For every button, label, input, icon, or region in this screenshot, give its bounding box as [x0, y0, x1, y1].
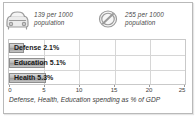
bar-label-education: Education 5.1%	[14, 57, 66, 68]
stat-item-cars: 139 per 1000 population	[4, 4, 95, 34]
car-icon	[4, 7, 31, 31]
bar-value-health: 5.3%	[37, 74, 53, 81]
bar-label-defense: Defense 2.1%	[14, 42, 59, 53]
bar-category-education: Education	[14, 59, 48, 66]
x-tick-label-25: 25	[179, 87, 186, 93]
bar-label-health: Health 5.3%	[14, 72, 53, 83]
bar-category-health: Health	[14, 74, 35, 81]
bar-series: Defense 2.1% Education 5.1% Health 5.3%	[9, 40, 185, 84]
bar-row-health[interactable]: Health 5.3%	[9, 70, 185, 85]
x-tick-label-5: 5	[42, 87, 45, 93]
stat-label-cars: 139 per 1000 population	[34, 11, 73, 26]
bar-chart-plot: Defense 2.1% Education 5.1% Health 5.3%	[8, 39, 186, 85]
x-tick-label-15: 15	[111, 87, 118, 93]
x-tick-label-20: 20	[146, 87, 153, 93]
telephone-circle-icon	[95, 7, 122, 31]
bar-row-defense[interactable]: Defense 2.1%	[9, 40, 185, 55]
bar-row-education[interactable]: Education 5.1%	[9, 55, 185, 70]
stat-row: 139 per 1000 population 255 per 1000 pop…	[4, 4, 186, 34]
bar-value-education: 5.1%	[50, 59, 66, 66]
stat-label-telephones: 255 per 1000 population	[125, 11, 164, 26]
infographic-card: 139 per 1000 population 255 per 1000 pop…	[0, 0, 196, 118]
x-tick-label-10: 10	[76, 87, 83, 93]
stat-item-telephones: 255 per 1000 population	[95, 4, 186, 34]
bar-category-defense: Defense	[14, 44, 41, 51]
x-axis: 0 5 10 15 20 25	[8, 85, 186, 95]
x-tick-label-0: 0	[8, 87, 11, 93]
chart-caption: Defense, Health, Education spending as %…	[9, 96, 189, 103]
bar-value-defense: 2.1%	[43, 44, 59, 51]
